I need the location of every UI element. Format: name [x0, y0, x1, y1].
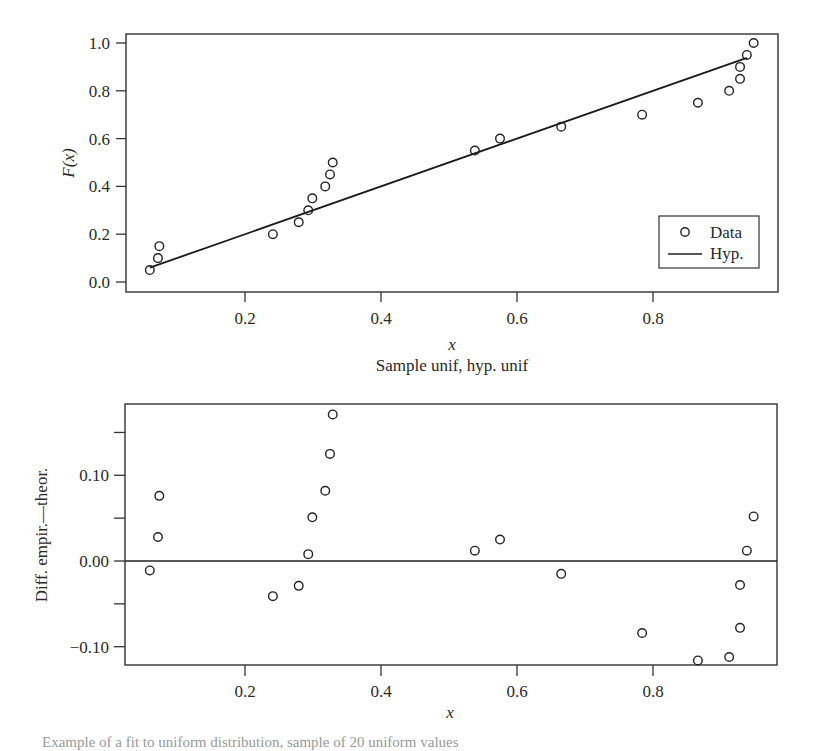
- data-point: [326, 450, 335, 459]
- data-point: [294, 582, 303, 591]
- data-point: [155, 242, 164, 251]
- data-point: [496, 535, 505, 544]
- x-tick-label: 0.2: [234, 682, 255, 701]
- x-tick-label: 0.4: [370, 682, 392, 701]
- bottom-x-axis: 0.20.40.60.8: [234, 665, 663, 701]
- data-point: [743, 546, 752, 555]
- data-point: [326, 170, 335, 179]
- y-tick-label: 0.2: [89, 225, 110, 244]
- x-tick-label: 0.4: [370, 309, 392, 328]
- data-point: [557, 570, 566, 579]
- data-point: [736, 624, 745, 633]
- data-point: [269, 230, 278, 239]
- y-tick-label: 0.8: [89, 82, 110, 101]
- data-point: [304, 550, 313, 559]
- data-point: [471, 546, 480, 555]
- data-point: [146, 566, 155, 575]
- bottom-plot-frame: [125, 404, 777, 665]
- top-plot-subtitle: Sample unif, hyp. unif: [376, 356, 529, 375]
- cdf-plot: 0.00.20.40.60.81.0 0.20.40.60.8 F(x) x S…: [59, 34, 778, 375]
- data-point: [638, 629, 647, 638]
- data-point: [725, 87, 734, 96]
- data-point: [294, 218, 303, 227]
- data-point: [638, 110, 647, 119]
- top-y-axis: 0.00.20.40.60.81.0: [89, 34, 126, 292]
- y-tick-label: 0.6: [89, 130, 110, 149]
- y-tick-label: 0.00: [79, 552, 109, 571]
- data-point: [321, 182, 330, 191]
- y-tick-label: 1.0: [89, 34, 110, 53]
- legend: Data Hyp.: [659, 216, 759, 268]
- bottom-y-axis: −0.100.000.10: [70, 432, 125, 656]
- x-tick-label: 0.2: [234, 309, 255, 328]
- y-tick-label: 0.4: [89, 177, 111, 196]
- y-tick-label: 0.10: [79, 466, 109, 485]
- hypothesis-line: [150, 58, 747, 268]
- top-x-axis: 0.20.40.60.8: [234, 292, 663, 328]
- data-point: [269, 592, 278, 601]
- data-point: [736, 75, 745, 84]
- data-point: [749, 512, 758, 521]
- bottom-x-axis-title: x: [445, 703, 454, 722]
- data-point: [321, 486, 330, 495]
- y-tick-label: −0.10: [70, 638, 109, 657]
- difference-plot: −0.100.000.10 0.20.40.60.8 Diff. empir.—…: [32, 404, 777, 722]
- data-point: [736, 581, 745, 590]
- legend-box: [659, 216, 759, 268]
- data-point: [328, 410, 337, 419]
- y-tick-label: 0.0: [89, 273, 110, 292]
- data-point: [155, 492, 164, 501]
- data-point: [694, 98, 703, 107]
- top-x-axis-title: x: [447, 335, 456, 354]
- legend-hyp-label: Hyp.: [710, 244, 744, 263]
- data-point: [694, 656, 703, 665]
- data-point: [154, 254, 163, 263]
- x-tick-label: 0.8: [642, 309, 663, 328]
- data-point: [154, 533, 163, 542]
- data-point: [736, 63, 745, 72]
- figure-caption: Example of a fit to uniform distribution…: [42, 734, 459, 751]
- legend-data-label: Data: [710, 223, 743, 242]
- data-point: [749, 39, 758, 48]
- data-point: [496, 134, 505, 143]
- x-tick-label: 0.6: [506, 682, 527, 701]
- x-tick-label: 0.6: [506, 309, 527, 328]
- x-tick-label: 0.8: [642, 682, 663, 701]
- data-point: [725, 653, 734, 662]
- data-point: [308, 194, 317, 203]
- bottom-data-series: [146, 410, 758, 665]
- data-point: [308, 513, 317, 522]
- top-y-axis-title: F(x): [59, 148, 78, 179]
- data-point: [328, 158, 337, 167]
- bottom-y-axis-title: Diff. empir.—theor.: [32, 468, 51, 603]
